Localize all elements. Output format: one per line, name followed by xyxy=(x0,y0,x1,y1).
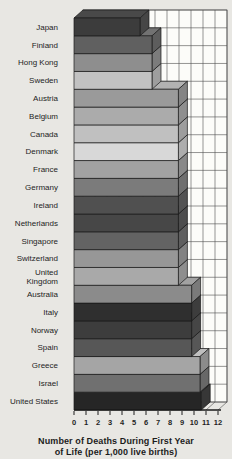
bar-front-face xyxy=(74,250,178,268)
x-axis-title-line2: of Life (per 1,000 live births) xyxy=(0,447,232,458)
x-tick-label-1: 1 xyxy=(84,418,88,427)
x-tick-label-6: 6 xyxy=(144,418,148,427)
category-label-denmark: Denmark xyxy=(26,147,59,156)
bar-front-face xyxy=(74,214,178,232)
x-tick-label-10: 10 xyxy=(190,418,198,427)
x-tick-label-4: 4 xyxy=(120,418,125,427)
bar-front-face xyxy=(74,89,178,107)
category-label-italy: Italy xyxy=(43,308,58,317)
bar-japan xyxy=(74,10,149,36)
category-label-france: France xyxy=(33,165,58,174)
bar-front-face xyxy=(74,196,178,214)
category-label-ireland: Ireland xyxy=(34,201,58,210)
category-label-sweden: Sweden xyxy=(29,76,58,85)
bar-chart: JapanFinlandHong KongSwedenAustriaBelgiu… xyxy=(0,0,232,434)
category-label-singapore: Singapore xyxy=(22,237,59,246)
x-tick-label-3: 3 xyxy=(108,418,112,427)
bar-front-face xyxy=(74,36,152,54)
bar-front-face xyxy=(74,232,178,250)
category-label-norway: Norway xyxy=(31,326,58,335)
bar-front-face xyxy=(74,143,178,161)
x-tick-label-7: 7 xyxy=(156,418,160,427)
bar-front-face xyxy=(74,392,201,410)
category-label-spain: Spain xyxy=(38,343,58,352)
x-tick-label-11: 11 xyxy=(202,418,210,427)
infant-mortality-figure: JapanFinlandHong KongSwedenAustriaBelgiu… xyxy=(0,0,232,459)
category-label-netherlands: Netherlands xyxy=(15,219,58,228)
bar-front-face xyxy=(74,161,178,179)
category-label-finland: Finland xyxy=(32,41,58,50)
bar-front-face xyxy=(74,71,152,89)
floor-connector xyxy=(218,402,227,410)
category-label-united-kingdom: UnitedKingdom xyxy=(26,268,58,286)
category-label-switzerland: Switzerland xyxy=(17,254,58,263)
bar-front-face xyxy=(74,125,178,143)
category-label-israel: Israel xyxy=(38,379,58,388)
x-axis-title-line1: Number of Deaths During First Year xyxy=(0,436,232,447)
category-label-austria: Austria xyxy=(33,94,58,103)
bar-front-face xyxy=(74,107,178,125)
bar-front-face xyxy=(74,321,192,339)
bar-front-face xyxy=(74,303,192,321)
x-tick-label-0: 0 xyxy=(72,418,76,427)
x-tick-label-2: 2 xyxy=(96,418,100,427)
bar-front-face xyxy=(74,339,192,357)
x-tick-label-5: 5 xyxy=(132,418,136,427)
bar-front-face xyxy=(74,54,152,72)
category-label-germany: Germany xyxy=(25,183,58,192)
bar-front-face xyxy=(74,285,192,303)
category-label-belgium: Belgium xyxy=(29,112,58,121)
category-label-united-states: United States xyxy=(10,397,58,406)
bar-front-face xyxy=(74,267,178,285)
category-label-canada: Canada xyxy=(30,130,59,139)
category-label-australia: Australia xyxy=(27,290,59,299)
bar-front-face xyxy=(74,374,200,392)
bar-front-face xyxy=(74,18,140,36)
category-label-hong-kong: Hong Kong xyxy=(18,58,58,67)
bar-front-face xyxy=(74,357,200,375)
x-axis-title: Number of Deaths During First Year of Li… xyxy=(0,436,232,457)
category-label-japan: Japan xyxy=(36,23,58,32)
x-tick-label-12: 12 xyxy=(214,418,222,427)
x-tick-label-8: 8 xyxy=(168,418,172,427)
category-label-greece: Greece xyxy=(32,361,59,370)
bar-front-face xyxy=(74,178,178,196)
x-tick-label-9: 9 xyxy=(180,418,184,427)
bar-top-face xyxy=(74,10,149,18)
